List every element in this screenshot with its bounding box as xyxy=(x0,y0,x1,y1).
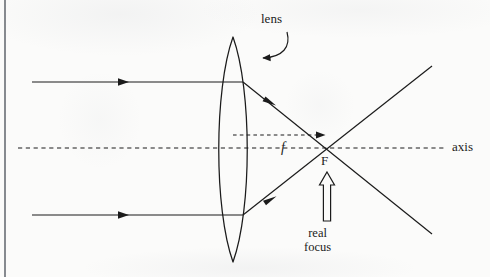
real-focus-line-2: focus xyxy=(304,241,331,255)
refracted-ray-lower xyxy=(243,66,432,215)
focal-point-label: F xyxy=(321,154,328,168)
lens-body xyxy=(219,37,248,262)
incident-ray-upper-arrowhead xyxy=(118,78,129,86)
focal-length-label: f xyxy=(281,140,285,155)
axis-label: axis xyxy=(452,140,473,154)
lens-callout-arrow xyxy=(263,32,288,58)
lens-label: lens xyxy=(261,12,282,26)
focal-length-arrowhead xyxy=(316,132,326,139)
real-focus-line-1: real xyxy=(304,227,331,241)
incident-ray-lower-arrowhead xyxy=(118,211,129,219)
lens-ray-diagram xyxy=(0,0,490,277)
real-focus-label: real focus xyxy=(304,227,331,254)
refracted-ray-upper xyxy=(243,82,432,234)
diagram-page: lens axis F f real focus xyxy=(0,0,490,277)
refracted-ray-upper-arrowhead xyxy=(263,97,277,106)
real-focus-pointer-arrow xyxy=(320,172,335,221)
